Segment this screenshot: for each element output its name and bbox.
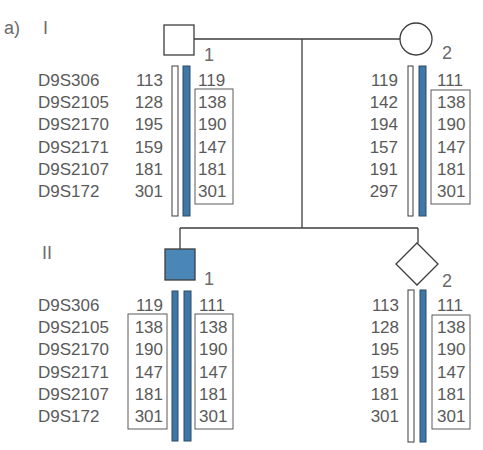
allele-right: 147 [437,138,465,157]
allele-left: 138 [135,318,163,337]
allele-left: 159 [135,138,163,157]
generation-label-II: II [42,243,52,263]
allele-right: 190 [437,340,465,359]
allele-right: 138 [437,93,465,112]
marker-label: D9S2107 [38,160,109,179]
individual-I-2: 2119142194157191297111138190147181301 [370,23,470,216]
allele-right: 138 [437,318,465,337]
allele-right: 190 [199,340,227,359]
disease-haplotype-bar [419,66,426,216]
allele-left: 147 [135,363,163,382]
allele-right: 111 [199,296,225,315]
allele-left: 119 [136,296,163,315]
allele-right: 147 [437,363,465,382]
allele-left: 181 [135,385,163,404]
allele-right: 147 [198,138,226,157]
marker-label: D9S306 [38,71,99,90]
allele-left: 181 [371,385,399,404]
allele-right: 138 [198,93,226,112]
allele-left: 142 [370,93,398,112]
disease-haplotype-bar [183,66,190,216]
allele-right: 119 [198,71,225,90]
allele-right: 147 [199,363,227,382]
allele-right: 301 [198,182,226,201]
individual-number: 1 [204,269,214,289]
marker-label: D9S2107 [38,385,109,404]
allele-right: 301 [437,182,465,201]
allele-left: 195 [135,115,163,134]
disease-haplotype-bar [184,291,191,441]
allele-left: 297 [370,182,398,201]
allele-left: 157 [370,138,398,157]
allele-left: 181 [135,160,163,179]
marker-label: D9S172 [38,182,99,201]
allele-left: 113 [372,296,399,315]
allele-left: 190 [135,340,163,359]
unknown-sex-diamond-icon [396,243,438,285]
allele-left: 159 [371,363,399,382]
allele-left: 301 [371,407,399,426]
allele-right: 111 [437,296,463,315]
marker-label: D9S2171 [38,138,109,157]
normal-haplotype-bar [408,66,413,216]
allele-left: 194 [370,115,398,134]
panel-label: a) [4,18,20,38]
marker-label: D9S306 [38,296,99,315]
allele-left: 301 [135,407,163,426]
allele-right: 181 [437,385,465,404]
allele-right: 111 [437,71,463,90]
allele-right: 301 [199,407,227,426]
allele-left: 195 [371,340,399,359]
generation-label-I: I [43,18,48,38]
marker-label: D9S2170 [38,115,109,134]
allele-left: 119 [371,71,398,90]
male-square-icon [164,25,194,55]
marker-label: D9S2105 [38,93,109,112]
normal-haplotype-bar [408,290,414,442]
individual-I-1: 1113128195159181301119138190147181301D9S… [38,25,233,216]
allele-right: 181 [437,160,465,179]
marker-label: D9S172 [38,407,99,426]
allele-left: 128 [371,318,399,337]
allele-right: 190 [198,115,226,134]
allele-right: 181 [199,385,227,404]
female-circle-icon [400,23,432,55]
individuals-layer: 1113128195159181301119138190147181301D9S… [38,23,470,442]
allele-right: 138 [199,318,227,337]
affected-male-square-icon [165,249,195,280]
allele-right: 190 [437,115,465,134]
marker-label: D9S2105 [38,318,109,337]
marker-label: D9S2171 [38,363,109,382]
allele-left: 113 [136,71,163,90]
marker-label: D9S2170 [38,340,109,359]
allele-left: 301 [135,182,163,201]
allele-left: 191 [370,160,398,179]
individual-number: 1 [204,45,214,65]
disease-haplotype-bar [172,291,178,441]
allele-right: 181 [198,160,226,179]
disease-haplotype-bar [420,290,426,442]
individual-II-2: 2113128195159181301111138190147181301 [371,243,470,442]
individual-II-1: 1119138190147181301111138190147181301D9S… [38,249,233,441]
individual-number: 2 [442,43,452,63]
normal-haplotype-bar [172,66,178,216]
pedigree-diagram: a) I II 11131281951591813011191381901471… [0,0,483,450]
allele-left: 128 [135,93,163,112]
allele-right: 301 [437,407,465,426]
individual-number: 2 [442,271,452,291]
